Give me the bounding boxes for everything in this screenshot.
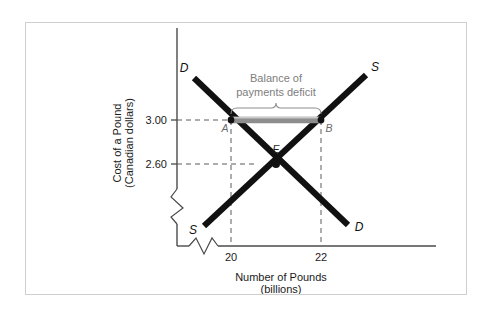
x-tick-label-22: 22	[315, 251, 327, 263]
point-e-label: E	[272, 143, 280, 155]
supply-label-top: S	[371, 60, 379, 74]
x-tick-label-20: 20	[225, 251, 237, 263]
figure-root: 3.00 2.60 20 22 D D S S A B E Balance of…	[0, 0, 492, 317]
x-axis-title-line1: Number of Pounds	[235, 271, 327, 283]
deficit-brace	[231, 103, 321, 114]
figure-frame: 3.00 2.60 20 22 D D S S A B E Balance of…	[25, 22, 467, 295]
point-b-label: B	[325, 122, 332, 134]
deficit-annotation-line1: Balance of	[250, 72, 303, 84]
point-b-dot	[318, 117, 325, 124]
x-axis-title-line2: (billions)	[261, 283, 302, 294]
demand-label-top: D	[180, 61, 189, 75]
y-axis-title-line2: (Canadian dollars)	[123, 98, 135, 188]
x-axis-break-icon	[189, 238, 218, 254]
demand-curve	[194, 78, 348, 225]
y-axis-title-line1: Cost of a Pound	[111, 104, 123, 183]
y-tick-label-300: 3.00	[146, 114, 167, 126]
point-a-dot	[228, 117, 235, 124]
demand-label-bottom: D	[355, 220, 364, 234]
y-axis-break-icon	[171, 189, 183, 224]
point-e-dot	[272, 160, 280, 168]
y-tick-label-260: 2.60	[146, 158, 167, 170]
deficit-annotation-line2: payments deficit	[236, 86, 315, 98]
point-a-label: A	[220, 122, 228, 134]
supply-demand-chart: 3.00 2.60 20 22 D D S S A B E Balance of…	[26, 23, 466, 294]
supply-label-bottom: S	[189, 223, 197, 237]
